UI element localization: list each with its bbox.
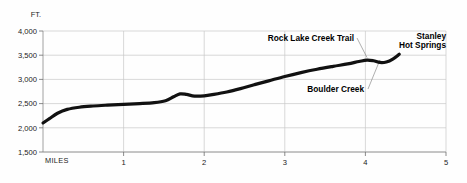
y-tick-label: 2,000 bbox=[18, 124, 37, 133]
leader-line-boulder-creek bbox=[368, 60, 380, 89]
x-tick-label: 4 bbox=[363, 158, 367, 167]
elevation-profile-chart: 1,5002,0002,5003,0003,5004,000 12345 FT.… bbox=[0, 0, 467, 183]
x-tick-label: 3 bbox=[283, 158, 287, 167]
y-tick-label: 2,500 bbox=[18, 99, 37, 108]
annotation-line: Boulder Creek bbox=[307, 84, 364, 94]
y-tick-label: 3,500 bbox=[18, 51, 37, 60]
annotation-stanley-hot-springs: StanleyHot Springs bbox=[399, 31, 446, 50]
x-tick-label: 1 bbox=[121, 158, 125, 167]
annotation-boulder-creek: Boulder Creek bbox=[307, 84, 364, 94]
annotation-rock-lake-creek-trail: Rock Lake Creek Trail bbox=[268, 33, 354, 43]
tick-marks bbox=[39, 31, 446, 156]
vertical-gridlines bbox=[124, 31, 446, 152]
chart-canvas: 1,5002,0002,5003,0003,5004,000 12345 FT.… bbox=[0, 0, 467, 183]
y-axis-unit-label: FT. bbox=[31, 10, 41, 19]
annotation-line: Hot Springs bbox=[399, 40, 446, 50]
x-axis-tick-labels: 12345 bbox=[121, 158, 448, 167]
axis-lines bbox=[43, 31, 446, 152]
y-tick-label: 3,000 bbox=[18, 75, 37, 84]
y-tick-label: 4,000 bbox=[18, 27, 37, 36]
annotation-line: Rock Lake Creek Trail bbox=[268, 33, 354, 43]
y-tick-label: 1,500 bbox=[18, 148, 37, 157]
annotation-leader-lines bbox=[357, 38, 380, 89]
y-axis-tick-labels: 1,5002,0002,5003,0003,5004,000 bbox=[18, 27, 37, 157]
x-tick-label: 2 bbox=[202, 158, 206, 167]
horizontal-gridlines bbox=[43, 31, 446, 152]
x-axis-label: MILES bbox=[45, 156, 69, 165]
x-tick-label: 5 bbox=[444, 158, 448, 167]
